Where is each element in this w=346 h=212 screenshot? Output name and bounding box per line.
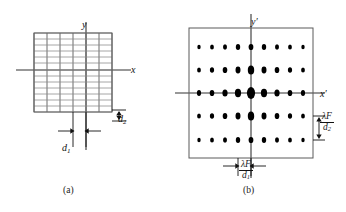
diffraction-spot [210,138,214,143]
diffraction-spot [210,113,214,119]
dimension-d1-arrow-left [85,128,89,133]
diffraction-spot [222,90,227,97]
fraction-den-subscript: 2 [328,125,331,132]
diffraction-spot-center-column [248,65,254,74]
axis-y-b-label: y′ [251,16,258,27]
diffraction-spot [223,113,228,119]
caption-panel-a: (a) [63,185,74,195]
diffraction-spot [262,113,267,120]
panel-a-grating-aperture [0,0,173,212]
diffraction-spot [288,90,293,96]
diffraction-spot-center-column [249,44,254,50]
diffraction-spot [301,67,305,72]
panel-b-drawing [173,0,346,212]
diffraction-spot [236,137,240,143]
diffraction-spot [301,45,304,50]
axis-x-b-label: x′ [320,88,327,99]
dimension-d1-subscript: 1 [67,147,71,155]
panel-b-diffraction-pattern [173,0,346,212]
diffraction-spot [210,90,215,96]
diffraction-spot [197,90,201,96]
diffraction-spot [275,44,279,49]
diffraction-spot [301,90,305,96]
diffraction-spot [210,45,214,50]
diffraction-spot [236,67,241,74]
diffraction-spot [262,44,266,50]
diffraction-spot [197,67,201,72]
diffraction-spot [262,137,266,143]
diffraction-spot [301,138,304,143]
fraction-denominator-d1: d1 [239,170,253,181]
diffraction-spot-center-column [248,111,254,120]
dimension-d2-label: d2 [118,113,127,126]
diffraction-spot [197,138,200,143]
fraction-den-subscript: 1 [247,173,250,180]
fraction-numerator-lambdaF: λF [320,112,334,122]
diffraction-spot [288,113,292,119]
diffraction-spot [275,137,279,142]
diffraction-spot [262,67,267,74]
axis-y-a-label: y [82,19,86,30]
diffraction-spot [288,138,292,143]
dimension-d1-arrow-right [70,128,74,133]
fraction-denominator-d2: d2 [320,122,334,133]
diffraction-spot [223,137,227,142]
diffraction-spot-zero-order [247,87,255,99]
diffraction-spot [223,44,227,49]
panel-a-drawing [0,0,173,212]
diffraction-spot [261,89,267,97]
diffraction-spot [235,89,241,97]
diffraction-spot [288,45,292,50]
caption-panel-b: (b) [243,185,254,195]
diffraction-spot [197,45,200,50]
dimension-d2-subscript: 2 [123,118,127,126]
diffraction-spot [275,67,280,73]
diffraction-spot [274,90,279,97]
dimension-d1-label: d1 [62,142,71,155]
dimension-lambdaF-over-d2-label: λF d2 [320,112,334,133]
diffraction-spot [288,67,292,73]
diffraction-spot [197,113,201,118]
diffraction-spot [236,113,241,120]
figure-root: y x d2 d1 (a) [0,0,346,212]
diffraction-spot [275,113,280,119]
diffraction-spot [236,44,240,50]
diffraction-spot [223,67,228,73]
dimension-lambdaF-over-d1-label: λF d1 [239,160,253,181]
diffraction-spot [301,113,305,118]
dimension-lambdaF-d2-arrow-down [316,134,321,139]
axis-x-a-label: x [131,64,135,75]
fraction-numerator-lambdaF: λF [239,160,253,170]
diffraction-spot [210,67,214,73]
diffraction-spot-center-column [249,137,254,143]
